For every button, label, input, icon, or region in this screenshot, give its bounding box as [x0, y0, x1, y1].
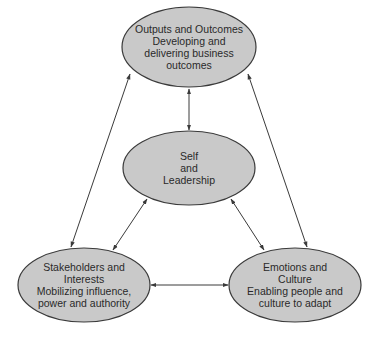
- node-description: Mobilizing influence,: [37, 285, 132, 297]
- node-title: and: [180, 162, 198, 174]
- node-title: Outputs and Outcomes: [135, 23, 243, 35]
- node-self-and-leadership: Self and Leadership: [123, 131, 255, 205]
- node-title: Stakeholders and: [43, 261, 125, 273]
- node-description: Enabling people and: [247, 285, 343, 297]
- leadership-framework-diagram: Outputs and Outcomes Developing and deli…: [0, 0, 379, 339]
- node-title: Leadership: [163, 174, 215, 186]
- node-title: Emotions and: [263, 261, 327, 273]
- node-title: Culture: [278, 273, 312, 285]
- node-emotions-and-culture: Emotions and Culture Enabling people and…: [229, 248, 361, 322]
- node-description: power and authority: [38, 297, 130, 309]
- node-description: culture to adapt: [259, 297, 331, 309]
- node-outputs-and-outcomes: Outputs and Outcomes Developing and deli…: [122, 7, 256, 87]
- node-description: delivering business: [144, 47, 233, 59]
- arrow-outputs-emotions: [248, 74, 307, 247]
- arrow-self-stakeholders: [113, 199, 147, 250]
- node-stakeholders-and-interests: Stakeholders and Interests Mobilizing in…: [18, 248, 150, 322]
- arrow-self-emotions: [231, 199, 264, 250]
- node-title: Interests: [64, 273, 104, 285]
- node-description: Developing and: [153, 35, 226, 47]
- node-title: Self: [180, 150, 198, 162]
- arrow-outputs-stakeholders: [71, 74, 130, 247]
- node-description: outcomes: [166, 59, 212, 71]
